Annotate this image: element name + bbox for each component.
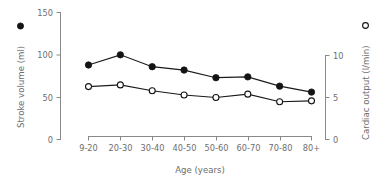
data-point [213,95,219,101]
data-point [276,83,282,89]
right-axis-tick-label-10: 10 [333,51,343,61]
chart-plot-area: 150 100 50 0 Stroke volume (ml) 10 5 0 C… [0,0,387,184]
left-axis-tick-label-50: 50 [43,93,53,103]
right-axis-title: Cardiac output (l/min) [361,46,371,141]
x-axis-category-label: 50-60 [205,143,229,153]
x-axis-title: Age (years) [175,165,225,175]
data-point [181,92,187,98]
x-axis-category-label: 70-80 [269,143,293,153]
series-layer [85,52,314,105]
data-point [213,74,219,80]
left-axis-title-group: Stroke volume (ml) [16,23,26,128]
data-point [308,89,314,95]
x-axis-category-label: 20-30 [109,143,133,153]
right-axis-tick-label-5: 5 [333,93,338,103]
x-axis-category-label: 9-20 [79,143,98,153]
data-point [117,82,123,88]
data-point [117,52,123,58]
legend-open-circle-icon [363,23,369,29]
left-axis: 150 100 50 0 [37,8,60,146]
data-point [245,91,251,97]
x-axis-category-label: 30-40 [141,143,165,153]
left-axis-tick-label-150: 150 [37,8,53,18]
right-axis-tick-label-0: 0 [333,135,338,145]
left-axis-title: Stroke volume (ml) [16,46,26,128]
x-axis-category-label: 80+ [303,143,320,153]
x-axis-category-label: 40-50 [173,143,197,153]
left-axis-tick-label-100: 100 [37,50,53,60]
data-point [181,67,187,73]
x-axis: 9-20 20-30 30-40 40-50 50-60 60-70 70-80… [79,136,320,175]
x-axis-line [89,136,312,141]
data-point [277,99,283,105]
right-axis: 10 5 0 [326,51,344,146]
x-axis-category-label: 60-70 [237,143,261,153]
data-point [149,88,155,94]
data-point [245,74,251,80]
data-point [86,84,92,90]
right-axis-title-group: Cardiac output (l/min) [361,23,371,140]
chart-figure: 150 100 50 0 Stroke volume (ml) 10 5 0 C… [0,0,387,184]
left-axis-tick-label-0: 0 [48,135,53,145]
data-point [85,62,91,68]
data-point [149,63,155,69]
legend-filled-circle-icon [17,23,23,29]
data-point [309,98,315,104]
